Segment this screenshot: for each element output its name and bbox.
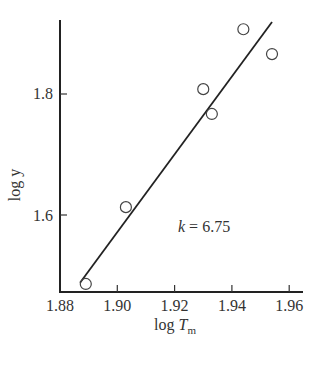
axes [59, 20, 303, 293]
data-point [198, 84, 209, 95]
data-points [80, 24, 277, 290]
regression-line [80, 22, 272, 283]
annotation-k: k = 6.75 [178, 218, 230, 235]
x-axis-label: log Tm [154, 316, 196, 336]
x-tick-label: 1.88 [46, 297, 74, 314]
x-tick-label: 1.90 [103, 297, 131, 314]
y-tick-label: 1.8 [33, 85, 53, 102]
data-point [206, 108, 217, 119]
data-point [80, 278, 91, 289]
fit-line [80, 22, 272, 283]
data-point [267, 49, 278, 60]
y-tick-label: 1.6 [33, 207, 53, 224]
chart: 1.881.901.921.941.96 1.8 1.6 log y log T… [0, 0, 327, 376]
ticks: 1.881.901.921.941.96 [46, 94, 303, 314]
x-tick-label: 1.94 [218, 297, 246, 314]
data-point [238, 24, 249, 35]
x-tick-label: 1.92 [161, 297, 189, 314]
y-axis-label: log y [6, 169, 24, 201]
x-tick-label: 1.96 [275, 297, 303, 314]
data-point [120, 202, 131, 213]
